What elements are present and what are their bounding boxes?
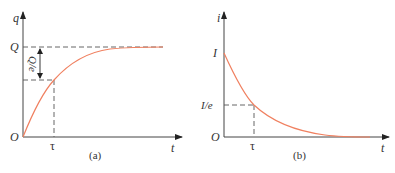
caption-a: (a) [89, 149, 102, 162]
q-axis-label: q [13, 11, 19, 25]
i-level-label: I [212, 46, 218, 60]
i-axis-label: i [217, 11, 220, 25]
arrow-down-icon [37, 73, 43, 79]
rc-circuit-diagrams: q Q Q/e O τ t (a) i I I/e O τ t (b) [0, 0, 395, 173]
current-graph: i I I/e O τ t (b) [200, 11, 389, 162]
q-over-e-label: Q/e [27, 56, 39, 72]
charging-curve [23, 47, 163, 137]
caption-b: (b) [293, 149, 306, 162]
origin-label: O [10, 130, 19, 144]
charge-graph: q Q Q/e O τ t (a) [10, 11, 182, 162]
tau-label-b: τ [250, 139, 255, 153]
t-axis-label-b: t [381, 141, 385, 155]
i-over-e-label: I/e [200, 99, 213, 111]
arrow-up-icon [37, 48, 43, 54]
tau-label: τ [50, 139, 55, 153]
origin-label-b: O [211, 130, 220, 144]
q-level-label: Q [10, 40, 19, 54]
t-axis-label: t [171, 141, 175, 155]
decay-curve [224, 53, 370, 137]
